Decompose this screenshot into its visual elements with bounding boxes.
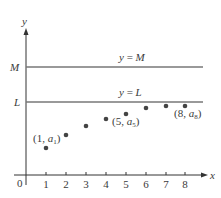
data-points [44,104,188,151]
x-axis-label: x [209,169,215,181]
x-tick-label: 4 [103,178,109,190]
annotation-point-8: (8, a8) [174,107,202,121]
x-tick-labels: 1 2 3 4 5 6 7 8 [43,178,188,190]
x-tick-label: 6 [143,178,149,190]
M-tick-label: M [9,61,20,73]
annotation-point-1: (1, a1) [33,132,61,146]
y-axis-label: y [21,15,27,27]
x-tick-label: 5 [123,178,129,190]
origin-label: 0 [17,177,23,189]
x-tick-label: 2 [63,178,69,190]
y-axis-arrow-icon [24,28,29,35]
x-tick-label: 3 [83,178,89,190]
L-tick-label: L [13,96,20,108]
data-point [84,124,89,129]
data-point [64,133,69,138]
x-tick-label: 7 [163,178,169,190]
annotation-point-5: (5, a5) [112,115,140,129]
x-tick-label: 1 [43,178,49,190]
line-M-label: y = M [118,51,146,63]
x-tick-label: 8 [182,178,188,190]
data-point [164,104,169,109]
x-axis-arrow-icon [201,173,208,178]
data-point [144,106,149,111]
data-point [44,146,49,151]
sequence-chart: y x M L 0 y = M y = L 1 2 3 4 5 6 7 8 [0,0,221,198]
data-point [104,117,109,122]
line-L-label: y = L [118,86,142,98]
